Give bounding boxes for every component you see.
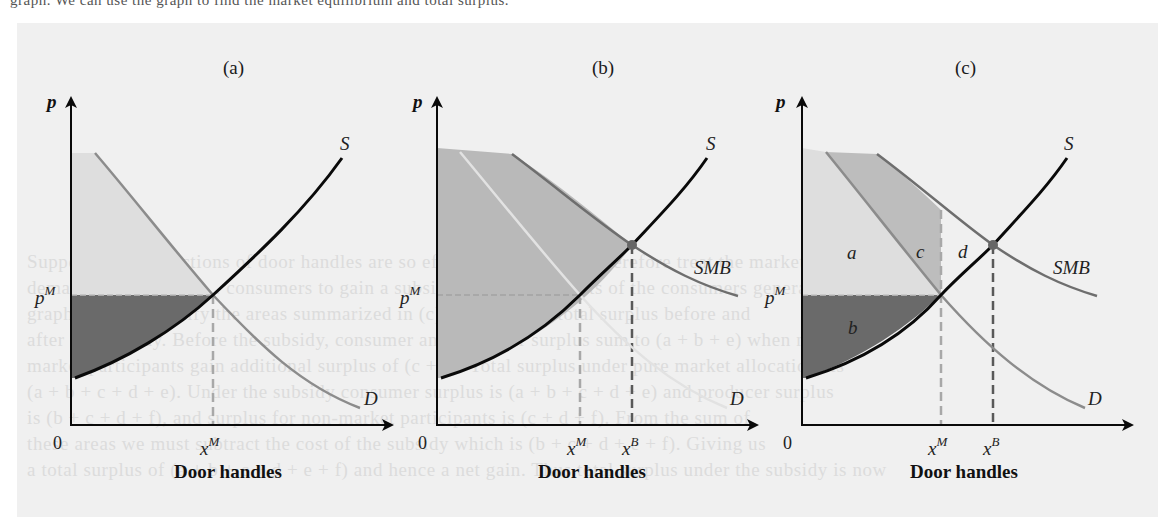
area-d-label: d [958, 241, 968, 262]
quantity-xm-label: xM [199, 434, 220, 459]
quantity-xm-label: xM [566, 434, 587, 459]
panel-a: (a) p S D pM 0 xM Door handles [33, 57, 392, 482]
price-pm-label: pM [33, 283, 57, 308]
demand-label: D [363, 388, 378, 409]
y-axis-label: p [774, 91, 786, 112]
panel-label: (c) [955, 57, 976, 79]
supply-label: S [706, 133, 716, 154]
pm-base: p [33, 287, 45, 308]
area-c-label: c [916, 241, 925, 262]
efficient-equilibrium-dot [627, 240, 637, 250]
origin-label: 0 [783, 433, 792, 453]
smb-label: SMB [1053, 257, 1090, 278]
quantity-xm-label: xM [927, 434, 948, 459]
origin-label: 0 [53, 433, 62, 453]
pm-base: p [763, 287, 775, 308]
xb-sup: B [991, 434, 999, 449]
consumer-surplus-area [71, 153, 212, 295]
efficient-equilibrium-dot [988, 240, 998, 250]
pm-base: p [398, 287, 410, 308]
area-b [802, 295, 940, 378]
area-b-label: b [848, 317, 858, 338]
pm-sup: M [774, 283, 787, 298]
xm-sup: M [935, 434, 948, 449]
smb-label: SMB [694, 257, 731, 278]
quantity-xb-label: xB [621, 434, 638, 459]
xm-sup: M [207, 434, 220, 449]
panel-label: (b) [592, 57, 614, 79]
producer-surplus-area [71, 295, 212, 378]
pm-sup: M [44, 283, 57, 298]
origin-label: 0 [418, 433, 427, 453]
area-a-label: a [847, 242, 857, 263]
total-surplus-area [437, 148, 632, 378]
figure: (a) p S D pM 0 xM Door handles (b) p S S… [0, 0, 1175, 530]
y-axis-label: p [45, 91, 57, 112]
supply-label: S [1064, 133, 1074, 154]
x-axis-title: Door handles [538, 461, 646, 482]
panel-b: (b) p S SMB D pM 0 xM xB Door handles [398, 57, 757, 482]
panel-label: (a) [223, 57, 244, 79]
xm-sup: M [574, 434, 587, 449]
x-axis-title: Door handles [174, 461, 282, 482]
x-axis-title: Door handles [910, 461, 1018, 482]
demand-label: D [1087, 388, 1102, 409]
price-pm-label: pM [398, 283, 422, 308]
demand-label: D [729, 388, 744, 409]
pm-sup: M [409, 283, 422, 298]
panel-c: (c) p S SMB D a c d b pM 0 xM xB Door ha… [763, 57, 1132, 482]
supply-label: S [340, 133, 350, 154]
price-pm-label: pM [763, 283, 787, 308]
xb-sup: B [630, 434, 638, 449]
y-axis-label: p [411, 91, 423, 112]
quantity-xb-label: xB [982, 434, 999, 459]
